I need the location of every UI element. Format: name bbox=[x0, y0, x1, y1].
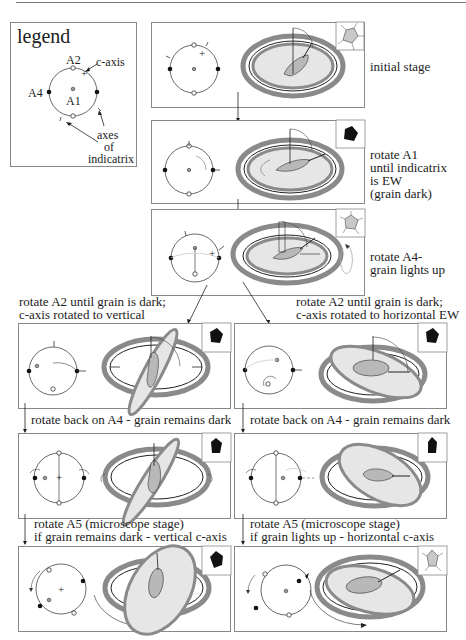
right-step3-diagram bbox=[0, 0, 466, 640]
